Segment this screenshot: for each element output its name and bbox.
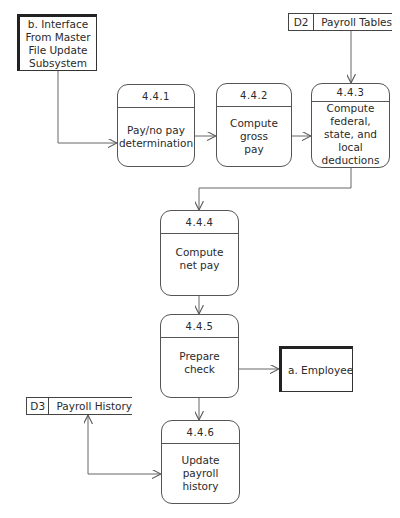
data-store-d3[interactable]: D3 Payroll History bbox=[26, 397, 132, 415]
external-entity-employee[interactable]: a. Employee bbox=[279, 346, 353, 392]
data-store-name: Payroll Tables bbox=[314, 14, 392, 30]
external-entity-interface[interactable]: b. Interface From Master File Update Sub… bbox=[17, 14, 97, 71]
process-4-4-3[interactable]: 4.4.3 Compute federal, state, and local … bbox=[311, 83, 390, 168]
process-id: 4.4.2 bbox=[217, 84, 291, 107]
data-store-name: Payroll History bbox=[49, 398, 132, 414]
flow-interface-to-4.4.1 bbox=[58, 70, 117, 143]
process-label: Compute federal, state, and local deduct… bbox=[312, 102, 389, 167]
process-4-4-2[interactable]: 4.4.2 Compute gross pay bbox=[216, 83, 292, 167]
process-id: 4.4.1 bbox=[118, 85, 194, 108]
process-4-4-1[interactable]: 4.4.1 Pay/no pay determination bbox=[117, 84, 195, 167]
process-label: Compute gross pay bbox=[217, 107, 291, 166]
data-store-id: D3 bbox=[27, 398, 49, 414]
process-id: 4.4.3 bbox=[312, 84, 389, 102]
process-label: Compute net pay bbox=[161, 234, 238, 295]
process-4-4-4[interactable]: 4.4.4 Compute net pay bbox=[160, 210, 239, 296]
process-id: 4.4.6 bbox=[162, 421, 239, 444]
flow-4.4.3-to-4.4.4 bbox=[199, 167, 351, 210]
process-4-4-6[interactable]: 4.4.6 Update payroll history bbox=[161, 420, 240, 504]
process-label: Update payroll history bbox=[162, 444, 239, 503]
process-4-4-5[interactable]: 4.4.5 Prepare check bbox=[160, 314, 239, 398]
data-store-id: D2 bbox=[289, 14, 314, 30]
data-store-d2[interactable]: D2 Payroll Tables bbox=[288, 13, 392, 31]
process-label: Prepare check bbox=[161, 338, 238, 397]
process-id: 4.4.5 bbox=[161, 315, 238, 338]
process-id: 4.4.4 bbox=[161, 211, 238, 234]
process-label: Pay/no pay determination bbox=[118, 108, 194, 166]
external-entity-label: b. Interface From Master File Update Sub… bbox=[25, 18, 90, 70]
external-entity-label: a. Employee bbox=[288, 364, 353, 377]
flow-4.4.6-d3-bidirectional bbox=[88, 415, 161, 474]
